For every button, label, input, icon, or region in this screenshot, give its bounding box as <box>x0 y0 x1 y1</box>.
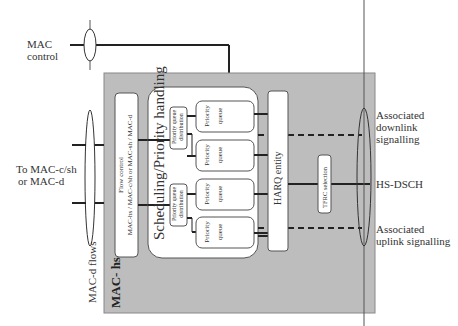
mac-d-flows-ellipse <box>85 110 95 246</box>
tfrc-selection-text: TFRC selection <box>319 167 330 208</box>
mac-d-flows-label: MAC-d flows <box>86 242 98 303</box>
priority-queue-3-text: Priorityqueue <box>201 179 227 209</box>
downlink-signalling-label: Associated downlink signalling <box>376 109 424 145</box>
mac-control-ellipse <box>84 29 96 61</box>
to-mac-label: To MAC-c/sh or MAC-d <box>16 163 77 187</box>
uplink-signalling-label: Associated uplink signalling <box>376 223 450 247</box>
scheduling-label: Scheduling/Priority handling <box>150 66 168 240</box>
hs-dsch-label: HS-DSCH <box>376 178 423 190</box>
priority-queue-1-text: Priorityqueue <box>201 101 227 131</box>
mac-hs-label: MAC- hs <box>108 257 124 308</box>
mac-control-label: MAC control <box>27 38 58 62</box>
flow-control-text: Flow control MAC-hs / MAC-c/sh or MAC-sh… <box>117 100 135 250</box>
priority-queue-2-text: Priorityqueue <box>201 140 227 170</box>
priority-queue-distribution-2-text: Priority queue distribution <box>171 184 185 224</box>
priority-queue-distribution-1-text: Priority queue distribution <box>171 107 185 147</box>
harq-entity-text: HARQ entity <box>271 151 285 205</box>
priority-queue-4-text: Priorityqueue <box>201 217 227 247</box>
